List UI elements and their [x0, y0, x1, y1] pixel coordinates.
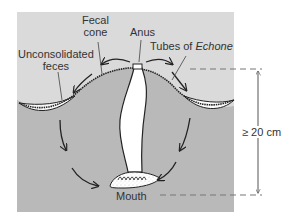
label-anus: Anus — [130, 26, 155, 38]
label-mouth: Mouth — [116, 190, 147, 202]
label-fecal-cone-line2: cone — [82, 26, 109, 38]
label-unconsolidated-line2: feces — [18, 60, 94, 72]
label-tubes-of-echone: Tubes of Echone — [150, 40, 233, 52]
label-tubes-genus: Echone — [195, 40, 232, 52]
label-unconsolidated-line1: Unconsolidated — [18, 48, 94, 60]
anal-opening — [133, 64, 142, 69]
label-unconsolidated-feces: Unconsolidated feces — [18, 48, 94, 72]
label-fecal-cone-line1: Fecal — [82, 14, 109, 26]
label-tubes-prefix: Tubes of — [150, 40, 195, 52]
label-depth-scale: ≥ 20 cm — [240, 126, 283, 138]
label-fecal-cone: Fecal cone — [82, 14, 109, 38]
